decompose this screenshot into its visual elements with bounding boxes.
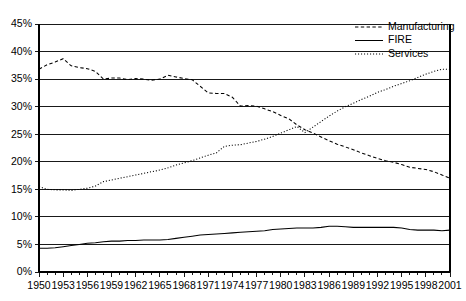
x-axis-tick-label: 1977 [245,279,269,291]
legend-label-services: Services [388,47,428,59]
x-axis-tick-label: 1986 [317,279,341,291]
x-axis-tick-label: 1992 [366,279,390,291]
y-axis-labels: 0%5%10%15%20%25%30%35%40%45% [11,17,32,277]
data-series [39,59,450,249]
series-line-manufacturing [39,59,450,179]
y-axis-tick-label: 40% [11,45,32,57]
series-line-fire [39,226,450,248]
x-axis-tick-label: 1953 [51,279,75,291]
y-axis-tick-label: 30% [11,100,32,112]
x-axis-tick-label: 1950 [27,279,51,291]
chart-legend: ManufacturingFIREServices [355,20,455,59]
legend-label-manufacturing: Manufacturing [388,20,455,32]
y-axis-tick-label: 0% [17,265,32,277]
x-axis-tick-label: 1983 [293,279,317,291]
y-axis-tick-label: 45% [11,17,32,29]
y-axis-tick-label: 5% [17,238,32,250]
x-axis-tick-label: 2001 [438,279,462,291]
x-axis-ticks [39,272,450,277]
x-axis-labels: 1950195319561959196219651968197119741977… [27,279,462,291]
x-axis-tick-label: 1989 [342,279,366,291]
x-axis-tick-label: 1998 [414,279,438,291]
x-axis-tick-label: 1974 [221,279,245,291]
y-axis-tick-label: 25% [11,128,32,140]
x-axis-tick-label: 1956 [76,279,100,291]
x-axis-tick-label: 1971 [197,279,221,291]
x-axis-tick-label: 1959 [100,279,124,291]
series-line-services [39,69,450,190]
gridlines [35,24,450,272]
y-axis-tick-label: 35% [11,72,32,84]
plot-frame [39,24,450,272]
chart-container: 0%5%10%15%20%25%30%35%40%45% 19501953195… [0,0,466,301]
x-axis-tick-label: 1968 [172,279,196,291]
y-axis-tick-label: 20% [11,155,32,167]
x-axis-tick-label: 1962 [124,279,148,291]
y-axis-tick-label: 10% [11,210,32,222]
legend-label-fire: FIRE [388,33,412,45]
x-axis-tick-label: 1980 [269,279,293,291]
line-chart: 0%5%10%15%20%25%30%35%40%45% 19501953195… [0,0,466,301]
x-axis-tick-label: 1995 [390,279,414,291]
y-axis-tick-label: 15% [11,183,32,195]
x-axis-tick-label: 1965 [148,279,172,291]
